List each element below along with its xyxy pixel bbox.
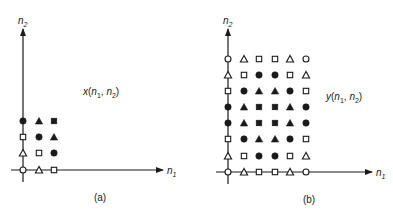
open-circle-icon <box>225 169 231 175</box>
filled-circle-icon <box>225 104 231 110</box>
open-square-icon <box>303 88 308 93</box>
open-square-icon <box>225 88 230 93</box>
open-square-icon <box>272 56 277 61</box>
filled-square-icon <box>256 104 262 110</box>
open-square-icon <box>241 153 246 158</box>
panel-a-y-axis-label: n2 <box>18 15 28 28</box>
filled-triangle-icon <box>240 104 247 111</box>
open-square-icon <box>241 72 246 77</box>
open-square-icon <box>36 150 41 155</box>
filled-triangle-icon <box>35 118 42 125</box>
panel-a-caption: (a) <box>94 192 106 203</box>
open-square-icon <box>287 153 292 158</box>
open-triangle-icon <box>240 56 247 63</box>
panel-a: n2 n1 x(n1, n2) (a) <box>11 15 177 203</box>
filled-triangle-icon <box>271 88 278 95</box>
open-circle-icon <box>225 56 231 62</box>
panel-a-x-axis-label: n1 <box>167 165 177 178</box>
filled-circle-icon <box>36 134 42 140</box>
panel-b-caption: (b) <box>303 194 315 205</box>
open-square-icon <box>287 72 292 77</box>
filled-circle-icon <box>303 120 309 126</box>
filled-triangle-icon <box>255 88 262 95</box>
panel-a-signal-label: x(n1, n2) <box>82 86 119 99</box>
open-triangle-icon <box>302 153 309 160</box>
diagram-canvas: n2 n1 x(n1, n2) (a) n2 n1 y(n1, n2) (b) <box>0 0 393 216</box>
open-square-icon <box>256 169 261 174</box>
panel-a-markers <box>19 118 57 174</box>
filled-triangle-icon <box>286 120 293 127</box>
filled-circle-icon <box>225 120 231 126</box>
open-triangle-icon <box>224 153 231 160</box>
open-circle-icon <box>303 56 309 62</box>
open-square-icon <box>20 134 25 139</box>
filled-triangle-icon <box>271 136 278 143</box>
open-square-icon <box>272 169 277 174</box>
open-triangle-icon <box>224 72 231 79</box>
filled-circle-icon <box>272 153 278 159</box>
filled-circle-icon <box>241 88 247 94</box>
panel-b-markers <box>224 56 309 176</box>
filled-square-icon <box>272 120 278 126</box>
filled-circle-icon <box>20 118 26 124</box>
filled-square-icon <box>51 118 57 124</box>
filled-circle-icon <box>256 153 262 159</box>
filled-triangle-icon <box>50 134 57 141</box>
filled-square-icon <box>272 104 278 110</box>
panel-b: n2 n1 y(n1, n2) (b) <box>216 15 386 205</box>
filled-circle-icon <box>241 136 247 142</box>
open-circle-icon <box>303 169 309 175</box>
filled-circle-icon <box>51 150 57 156</box>
filled-circle-icon <box>287 88 293 94</box>
filled-circle-icon <box>303 104 309 110</box>
open-triangle-icon <box>19 150 26 157</box>
filled-triangle-icon <box>286 104 293 111</box>
filled-circle-icon <box>272 72 278 78</box>
open-square-icon <box>225 136 230 141</box>
open-triangle-icon <box>302 72 309 79</box>
open-square-icon <box>303 136 308 141</box>
open-square-icon <box>256 56 261 61</box>
open-triangle-icon <box>286 56 293 63</box>
panel-b-signal-label: y(n1, n2) <box>325 91 362 104</box>
filled-circle-icon <box>256 72 262 78</box>
filled-triangle-icon <box>255 136 262 143</box>
filled-square-icon <box>256 120 262 126</box>
filled-triangle-icon <box>240 120 247 127</box>
open-circle-icon <box>20 167 26 173</box>
panel-b-x-axis-label: n1 <box>376 167 386 180</box>
panel-b-y-axis-label: n2 <box>223 15 233 28</box>
filled-circle-icon <box>287 136 293 142</box>
open-square-icon <box>51 167 56 172</box>
